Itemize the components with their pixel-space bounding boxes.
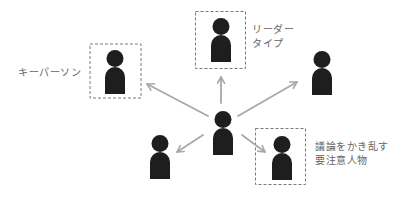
person-icon-right [312, 51, 332, 95]
label-disruptor-line-2: 要注意人物 [315, 154, 389, 168]
arrow-to-key-person [147, 84, 208, 116]
label-disruptor-line-1: 議論をかき乱す [315, 140, 389, 154]
label-leader-type: リーダー タイプ [252, 23, 294, 51]
person-icon-center [213, 111, 233, 155]
arrow-to-lower-left-person [177, 135, 203, 152]
label-disruptor: 議論をかき乱す 要注意人物 [315, 140, 389, 168]
person-icon-lower-left [150, 135, 170, 179]
label-leader-type-line-1: リーダー [252, 23, 294, 37]
person-icon-disruptor [272, 136, 292, 180]
label-key-person-line-1: キーパーソン [18, 66, 81, 80]
person-icon-key-person [105, 50, 125, 94]
arrow-to-disruptor [242, 135, 265, 152]
arrow-to-right-person [238, 82, 297, 116]
label-key-person: キーパーソン [18, 66, 81, 80]
label-leader-type-line-2: タイプ [252, 37, 294, 51]
person-icon-leader-type [211, 18, 231, 62]
stakeholder-diagram [0, 0, 409, 200]
